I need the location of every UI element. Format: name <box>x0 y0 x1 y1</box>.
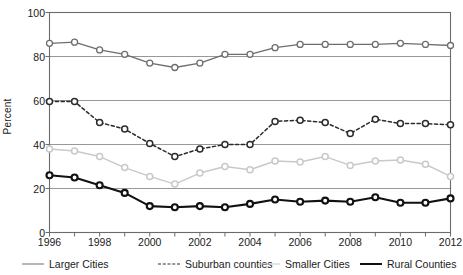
data-point-marker <box>422 121 428 127</box>
x-tick-label: 2002 <box>188 236 211 248</box>
data-point-marker <box>97 47 103 53</box>
data-point-marker <box>272 45 278 51</box>
data-point-marker <box>448 173 454 179</box>
data-point-marker <box>197 170 203 176</box>
data-point-marker <box>172 204 178 210</box>
data-point-marker <box>197 60 203 66</box>
data-point-marker <box>247 51 253 57</box>
x-tick-label: 2010 <box>389 236 412 248</box>
legend-label: Smaller Cities <box>285 258 350 270</box>
data-point-marker <box>322 120 328 126</box>
x-tick-label: 1998 <box>88 236 111 248</box>
data-point-marker <box>172 154 178 160</box>
data-point-marker <box>347 41 353 47</box>
series-line <box>50 102 451 157</box>
data-point-marker <box>347 199 353 205</box>
data-point-marker <box>147 173 153 179</box>
data-point-marker <box>272 158 278 164</box>
legend-line-swatch <box>360 259 382 269</box>
data-point-marker <box>272 118 278 124</box>
data-point-marker <box>222 164 228 170</box>
data-point-marker <box>397 200 403 206</box>
data-point-marker <box>122 165 128 171</box>
chart-legend: Larger CitiesSuburban countiesSmaller Ci… <box>0 253 463 275</box>
data-point-marker <box>197 203 203 209</box>
data-point-marker <box>372 194 378 200</box>
chart-figure: Percent 020406080100 1996199820002002200… <box>0 0 463 275</box>
data-point-marker <box>397 121 403 127</box>
x-tick-label: 2000 <box>138 236 161 248</box>
data-point-marker <box>297 159 303 165</box>
data-point-marker <box>222 51 228 57</box>
data-point-marker <box>47 172 53 178</box>
x-tick-label: 2008 <box>339 236 362 248</box>
legend-item-suburban-counties: Suburban counties <box>158 258 273 270</box>
legend-item-rural-counties: Rural Counties <box>360 258 456 270</box>
data-point-marker <box>422 41 428 47</box>
data-point-marker <box>297 41 303 47</box>
data-point-marker <box>172 181 178 187</box>
data-point-marker <box>97 120 103 126</box>
data-point-marker <box>222 204 228 210</box>
data-point-marker <box>448 195 454 201</box>
data-point-marker <box>297 199 303 205</box>
x-tick-label: 2012 <box>439 236 462 248</box>
legend-label: Rural Counties <box>387 258 456 270</box>
data-point-marker <box>97 182 103 188</box>
data-point-marker <box>147 140 153 146</box>
data-point-marker <box>147 203 153 209</box>
data-point-marker <box>47 99 53 105</box>
legend-line-swatch <box>258 259 280 269</box>
data-point-marker <box>247 201 253 207</box>
legend-label: Larger Cities <box>49 258 109 270</box>
x-tick-label: 2006 <box>288 236 311 248</box>
plot-area <box>0 0 463 275</box>
data-point-marker <box>222 142 228 148</box>
data-point-marker <box>372 41 378 47</box>
data-point-marker <box>122 190 128 196</box>
data-point-marker <box>47 146 53 152</box>
series-suburban-counties <box>47 99 454 160</box>
data-point-marker <box>147 60 153 66</box>
data-point-marker <box>47 40 53 46</box>
series-larger-cities <box>47 39 454 70</box>
data-point-marker <box>322 198 328 204</box>
data-point-marker <box>72 175 78 181</box>
data-point-marker <box>72 148 78 154</box>
data-point-marker <box>397 157 403 163</box>
data-point-marker <box>372 116 378 122</box>
data-point-marker <box>247 142 253 148</box>
data-point-marker <box>172 65 178 71</box>
data-point-marker <box>297 117 303 123</box>
data-point-marker <box>97 154 103 160</box>
legend-item-smaller-cities: Smaller Cities <box>258 258 350 270</box>
legend-line-swatch <box>158 259 180 269</box>
data-point-marker <box>72 99 78 105</box>
series-smaller-cities <box>47 146 454 187</box>
data-point-marker <box>272 197 278 203</box>
data-point-marker <box>72 39 78 45</box>
data-point-marker <box>448 43 454 49</box>
x-tick-label: 2004 <box>238 236 261 248</box>
data-point-marker <box>422 200 428 206</box>
data-point-marker <box>122 126 128 132</box>
data-point-marker <box>322 154 328 160</box>
data-point-marker <box>422 161 428 167</box>
data-point-marker <box>347 131 353 137</box>
data-point-marker <box>448 122 454 128</box>
data-point-marker <box>372 158 378 164</box>
data-point-marker <box>347 162 353 168</box>
data-point-marker <box>247 167 253 173</box>
data-point-marker <box>122 51 128 57</box>
x-tick-label: 1996 <box>38 236 61 248</box>
data-point-marker <box>322 41 328 47</box>
data-point-marker <box>397 40 403 46</box>
legend-item-larger-cities: Larger Cities <box>22 258 109 270</box>
series-rural-counties <box>47 172 454 210</box>
data-point-marker <box>197 146 203 152</box>
legend-line-swatch <box>22 259 44 269</box>
